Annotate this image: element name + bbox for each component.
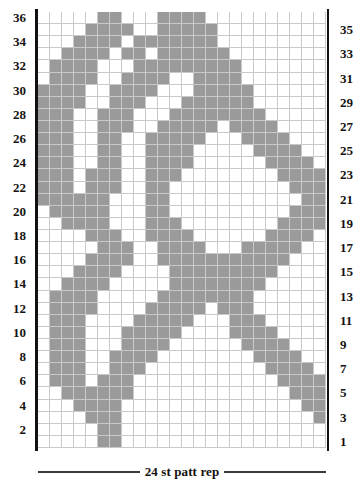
stitch-cell[interactable] xyxy=(182,157,194,169)
stitch-cell[interactable] xyxy=(158,412,170,424)
stitch-cell[interactable] xyxy=(110,109,122,121)
stitch-cell[interactable] xyxy=(146,254,158,266)
stitch-cell[interactable] xyxy=(206,230,218,242)
stitch-cell[interactable] xyxy=(278,182,290,194)
stitch-cell[interactable] xyxy=(314,400,326,412)
stitch-cell[interactable] xyxy=(50,109,62,121)
stitch-cell[interactable] xyxy=(146,48,158,60)
stitch-cell[interactable] xyxy=(86,24,98,36)
stitch-cell[interactable] xyxy=(206,109,218,121)
stitch-cell[interactable] xyxy=(122,303,134,315)
stitch-cell[interactable] xyxy=(134,315,146,327)
stitch-cell[interactable] xyxy=(266,315,278,327)
stitch-cell[interactable] xyxy=(194,182,206,194)
stitch-cell[interactable] xyxy=(134,375,146,387)
stitch-cell[interactable] xyxy=(134,97,146,109)
stitch-cell[interactable] xyxy=(278,133,290,145)
stitch-cell[interactable] xyxy=(146,266,158,278)
stitch-cell[interactable] xyxy=(206,48,218,60)
stitch-cell[interactable] xyxy=(158,400,170,412)
stitch-cell[interactable] xyxy=(218,278,230,290)
stitch-cell[interactable] xyxy=(254,145,266,157)
stitch-cell[interactable] xyxy=(62,291,74,303)
stitch-cell[interactable] xyxy=(314,169,326,181)
stitch-cell[interactable] xyxy=(122,97,134,109)
stitch-cell[interactable] xyxy=(290,60,302,72)
stitch-cell[interactable] xyxy=(230,303,242,315)
stitch-cell[interactable] xyxy=(278,24,290,36)
stitch-cell[interactable] xyxy=(146,351,158,363)
stitch-cell[interactable] xyxy=(38,315,50,327)
stitch-cell[interactable] xyxy=(314,351,326,363)
stitch-cell[interactable] xyxy=(134,145,146,157)
stitch-cell[interactable] xyxy=(98,157,110,169)
stitch-cell[interactable] xyxy=(110,387,122,399)
stitch-cell[interactable] xyxy=(206,73,218,85)
stitch-cell[interactable] xyxy=(74,182,86,194)
stitch-cell[interactable] xyxy=(230,48,242,60)
stitch-cell[interactable] xyxy=(266,109,278,121)
stitch-cell[interactable] xyxy=(290,339,302,351)
stitch-cell[interactable] xyxy=(194,436,206,448)
stitch-cell[interactable] xyxy=(146,218,158,230)
stitch-cell[interactable] xyxy=(218,291,230,303)
stitch-cell[interactable] xyxy=(74,363,86,375)
stitch-cell[interactable] xyxy=(230,121,242,133)
stitch-cell[interactable] xyxy=(146,182,158,194)
stitch-cell[interactable] xyxy=(134,121,146,133)
stitch-cell[interactable] xyxy=(110,315,122,327)
stitch-cell[interactable] xyxy=(50,363,62,375)
stitch-cell[interactable] xyxy=(290,133,302,145)
stitch-cell[interactable] xyxy=(182,97,194,109)
stitch-cell[interactable] xyxy=(290,36,302,48)
stitch-cell[interactable] xyxy=(182,24,194,36)
stitch-cell[interactable] xyxy=(230,387,242,399)
stitch-cell[interactable] xyxy=(38,424,50,436)
stitch-cell[interactable] xyxy=(194,97,206,109)
stitch-cell[interactable] xyxy=(98,36,110,48)
stitch-cell[interactable] xyxy=(62,109,74,121)
stitch-cell[interactable] xyxy=(86,266,98,278)
stitch-cell[interactable] xyxy=(302,351,314,363)
stitch-cell[interactable] xyxy=(206,254,218,266)
stitch-cell[interactable] xyxy=(86,194,98,206)
stitch-cell[interactable] xyxy=(278,218,290,230)
stitch-cell[interactable] xyxy=(134,133,146,145)
stitch-cell[interactable] xyxy=(62,36,74,48)
stitch-cell[interactable] xyxy=(242,24,254,36)
stitch-cell[interactable] xyxy=(86,218,98,230)
stitch-cell[interactable] xyxy=(206,424,218,436)
stitch-cell[interactable] xyxy=(242,169,254,181)
stitch-cell[interactable] xyxy=(98,254,110,266)
stitch-cell[interactable] xyxy=(278,97,290,109)
stitch-cell[interactable] xyxy=(50,97,62,109)
stitch-cell[interactable] xyxy=(170,182,182,194)
stitch-cell[interactable] xyxy=(194,291,206,303)
stitch-cell[interactable] xyxy=(74,387,86,399)
stitch-cell[interactable] xyxy=(146,400,158,412)
stitch-cell[interactable] xyxy=(290,12,302,24)
stitch-cell[interactable] xyxy=(170,412,182,424)
stitch-cell[interactable] xyxy=(218,169,230,181)
stitch-cell[interactable] xyxy=(122,254,134,266)
stitch-cell[interactable] xyxy=(74,133,86,145)
stitch-cell[interactable] xyxy=(74,12,86,24)
stitch-cell[interactable] xyxy=(194,169,206,181)
stitch-cell[interactable] xyxy=(86,387,98,399)
stitch-cell[interactable] xyxy=(158,436,170,448)
stitch-cell[interactable] xyxy=(170,218,182,230)
stitch-cell[interactable] xyxy=(218,339,230,351)
stitch-cell[interactable] xyxy=(38,73,50,85)
stitch-cell[interactable] xyxy=(266,133,278,145)
stitch-cell[interactable] xyxy=(86,363,98,375)
stitch-cell[interactable] xyxy=(110,60,122,72)
stitch-cell[interactable] xyxy=(278,387,290,399)
stitch-cell[interactable] xyxy=(290,145,302,157)
stitch-cell[interactable] xyxy=(254,242,266,254)
stitch-cell[interactable] xyxy=(242,387,254,399)
stitch-cell[interactable] xyxy=(278,48,290,60)
stitch-cell[interactable] xyxy=(206,375,218,387)
stitch-cell[interactable] xyxy=(122,436,134,448)
stitch-cell[interactable] xyxy=(266,206,278,218)
stitch-cell[interactable] xyxy=(242,400,254,412)
